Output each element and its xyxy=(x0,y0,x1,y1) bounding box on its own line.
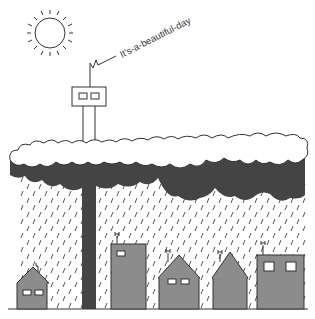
rainy-city-diagram: It's-a-beautiful-day xyxy=(0,0,315,319)
sun-icon xyxy=(27,10,73,56)
transmitter-box-icon xyxy=(72,56,116,145)
caption-text: It's-a-beautiful-day xyxy=(118,15,193,60)
cloud-top-layer xyxy=(10,133,308,168)
building-2 xyxy=(111,232,146,309)
rain-column xyxy=(82,170,96,309)
antenna-zigzag-icon xyxy=(90,56,116,87)
